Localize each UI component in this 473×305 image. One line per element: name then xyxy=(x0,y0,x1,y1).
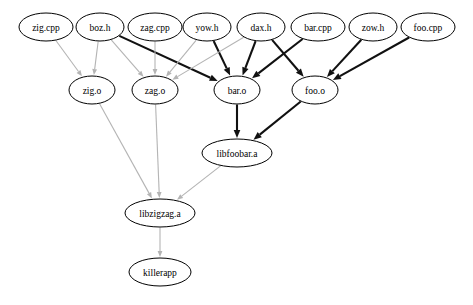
edge-zig_cpp-to-zig_o xyxy=(56,41,79,72)
arrowhead-zig_cpp-to-zig_o xyxy=(77,70,82,76)
node-zig_o[interactable]: zig.o xyxy=(69,76,115,104)
node-ellipse-libzigzag xyxy=(125,199,195,227)
edge-boz_h-to-zag_o xyxy=(111,40,139,72)
node-ellipse-bar_o xyxy=(214,76,260,104)
node-ellipse-zag_cpp xyxy=(128,13,182,41)
node-killerapp[interactable]: killerapp xyxy=(129,258,191,286)
arrowhead-zag_cpp-to-zag_o xyxy=(153,69,158,75)
dependency-graph-canvas: zig.cppboz.hzag.cppyow.hdax.hbar.cppzow.… xyxy=(0,0,473,305)
edge-zag_o-to-libzigzag xyxy=(156,105,160,193)
node-ellipse-zig_cpp xyxy=(19,13,73,41)
edge-dax_h-to-zag_o xyxy=(178,37,244,76)
node-ellipse-killerapp xyxy=(129,258,191,286)
node-ellipse-zig_o xyxy=(69,76,115,104)
node-boz_h[interactable]: boz.h xyxy=(76,13,124,41)
node-yow_h[interactable]: yow.h xyxy=(183,13,231,41)
edge-foo_cpp-to-foo_o xyxy=(340,38,409,77)
node-ellipse-zag_o xyxy=(132,76,178,104)
arrowhead-boz_h-to-zig_o xyxy=(92,69,97,75)
node-ellipse-foo_cpp xyxy=(401,13,455,41)
node-dax_h[interactable]: dax.h xyxy=(237,13,285,41)
node-ellipse-foo_o xyxy=(292,76,338,104)
node-libzigzag[interactable]: libzigzag.a xyxy=(125,199,195,227)
arrowhead-libzigzag-to-killerapp xyxy=(158,251,163,257)
node-ellipse-boz_h xyxy=(76,13,124,41)
node-bar_o[interactable]: bar.o xyxy=(214,76,260,104)
node-zow_h[interactable]: zow.h xyxy=(349,13,397,41)
node-bar_cpp[interactable]: bar.cpp xyxy=(291,13,345,41)
edge-zig_o-to-libzigzag xyxy=(100,104,149,193)
node-ellipse-yow_h xyxy=(183,13,231,41)
node-zag_o[interactable]: zag.o xyxy=(132,76,178,104)
edge-boz_h-to-bar_o xyxy=(119,36,210,78)
edge-foo_o-to-libfoobar xyxy=(260,102,301,135)
edge-yow_h-to-bar_o xyxy=(214,41,227,68)
node-ellipse-bar_cpp xyxy=(291,13,345,41)
node-foo_cpp[interactable]: foo.cpp xyxy=(401,13,455,41)
node-ellipse-dax_h xyxy=(237,13,285,41)
node-foo_o[interactable]: foo.o xyxy=(292,76,338,104)
arrowhead-zag_o-to-libzigzag xyxy=(157,192,162,198)
node-libfoobar[interactable]: libfoobar.a xyxy=(202,139,272,167)
arrowhead-bar_o-to-libfoobar xyxy=(234,130,241,138)
graph-svg: zig.cppboz.hzag.cppyow.hdax.hbar.cppzow.… xyxy=(0,0,473,305)
arrowhead-dax_h-to-zag_o xyxy=(172,75,178,80)
arrowhead-zig_o-to-libzigzag xyxy=(147,192,152,198)
nodes-layer: zig.cppboz.hzag.cppyow.hdax.hbar.cppzow.… xyxy=(19,13,455,286)
edge-boz_h-to-zig_o xyxy=(95,41,99,69)
node-ellipse-zow_h xyxy=(349,13,397,41)
node-zag_cpp[interactable]: zag.cpp xyxy=(128,13,182,41)
node-ellipse-libfoobar xyxy=(202,139,272,167)
edge-libfoobar-to-libzigzag xyxy=(182,166,221,196)
arrowhead-dax_h-to-bar_o xyxy=(242,67,248,76)
edge-dax_h-to-bar_o xyxy=(245,41,255,68)
node-zig_cpp[interactable]: zig.cpp xyxy=(19,13,73,41)
